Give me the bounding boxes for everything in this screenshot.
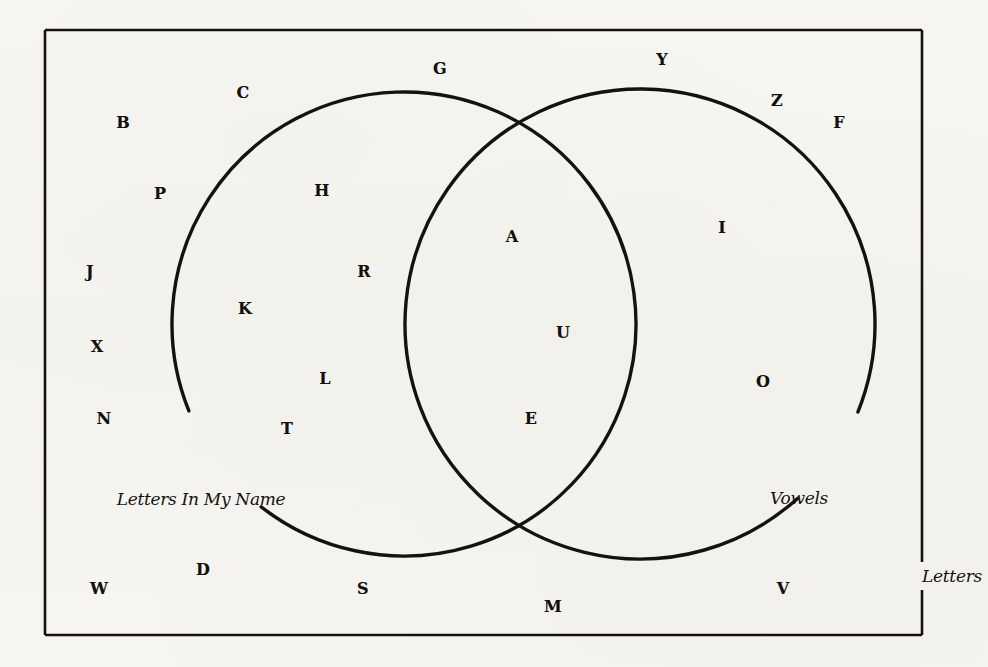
set-element-a: A <box>506 229 519 245</box>
set-label-letters-in-my-name: Letters In My Name <box>117 491 286 508</box>
set-element-r: R <box>357 264 371 280</box>
set-label-letters-universe: Letters <box>922 568 982 585</box>
set-element-s: S <box>357 581 369 597</box>
set-element-y: Y <box>656 52 668 68</box>
set-label-vowels: Vowels <box>770 490 828 507</box>
set-element-z: Z <box>771 93 783 109</box>
set-element-m: M <box>544 599 562 615</box>
set-element-d: D <box>196 562 210 578</box>
set-element-i: I <box>718 220 726 236</box>
set-element-u: U <box>556 325 570 341</box>
set-element-p: P <box>154 186 166 202</box>
set-element-e: E <box>525 411 537 427</box>
set-element-l: L <box>319 371 330 387</box>
venn-diagram-canvas <box>0 0 988 667</box>
set-element-f: F <box>833 115 845 131</box>
set-element-x: X <box>91 339 104 355</box>
set-element-h: H <box>314 183 329 199</box>
set-element-g: G <box>433 61 447 77</box>
set-element-n: N <box>97 411 112 427</box>
set-element-w: W <box>90 581 108 597</box>
set-element-b: B <box>116 115 130 131</box>
set-element-o: O <box>756 374 770 390</box>
set-element-j: J <box>86 264 94 280</box>
set-element-t: T <box>281 421 293 437</box>
set-element-k: K <box>238 301 252 317</box>
venn-diagram-page: BCGYZFPJXNWDSMVHRKLTAUEIO Letters In My … <box>0 0 988 667</box>
universe-rectangle <box>45 30 922 635</box>
set-element-c: C <box>237 85 250 101</box>
set-element-v: V <box>777 581 790 597</box>
